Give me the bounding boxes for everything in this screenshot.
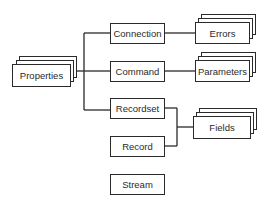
errors-label: Errors [195, 22, 250, 44]
connection-label: Connection [110, 23, 165, 44]
fields-label: Fields [193, 116, 251, 139]
parameters-label: Parameters [195, 60, 250, 82]
stream-label: Stream [110, 174, 165, 195]
record-label: Record [110, 136, 165, 157]
command-label: Command [110, 61, 165, 82]
recordset-label: Recordset [110, 98, 165, 119]
properties-label: Properties [12, 64, 71, 87]
